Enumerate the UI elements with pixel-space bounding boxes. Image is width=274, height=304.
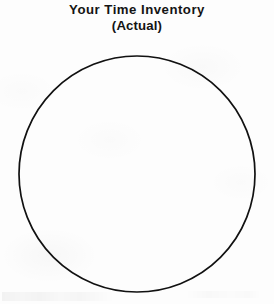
pie-chart-svg bbox=[0, 0, 274, 304]
pie-chart bbox=[0, 0, 274, 304]
pie-circle-outline bbox=[19, 56, 255, 292]
time-inventory-worksheet: Your Time Inventory (Actual) bbox=[0, 0, 274, 304]
